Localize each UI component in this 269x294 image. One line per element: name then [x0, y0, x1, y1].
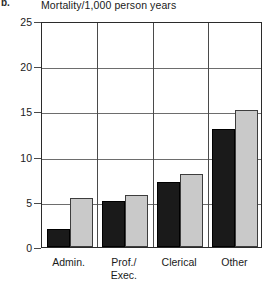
- group-divider: [97, 23, 98, 247]
- y-tick-label: 20: [4, 61, 32, 73]
- y-tick-label: 10: [4, 152, 32, 164]
- y-tick-label: 0: [4, 242, 32, 254]
- y-axis: 0510152025: [0, 0, 32, 294]
- y-tick-mark: [34, 112, 41, 113]
- figure-root: b. Mortality/1,000 person years 05101520…: [0, 0, 269, 294]
- group-divider: [208, 23, 209, 247]
- y-tick-mark: [34, 203, 41, 204]
- x-category-label: Prof./ Exec.: [96, 256, 151, 281]
- bar-series-dark-1: [102, 201, 125, 247]
- x-category-label: Admin.: [41, 256, 96, 269]
- bar-series-dark-3: [212, 129, 235, 247]
- gridline: [42, 113, 261, 114]
- x-category-label: Clerical: [152, 256, 207, 269]
- bar-series-dark-0: [47, 229, 70, 247]
- bar-series-dark-2: [157, 182, 180, 247]
- y-tick-mark: [34, 248, 41, 249]
- y-tick-mark: [34, 67, 41, 68]
- plot-area: [41, 22, 262, 248]
- gridline: [42, 68, 261, 69]
- x-category-label: Other: [207, 256, 262, 269]
- bar-series-light-0: [70, 198, 93, 247]
- y-tick-mark: [34, 158, 41, 159]
- bar-series-light-3: [235, 110, 258, 247]
- y-tick-mark: [34, 22, 41, 23]
- group-divider: [153, 23, 154, 247]
- chart-title: Mortality/1,000 person years: [41, 0, 176, 11]
- y-tick-label: 25: [4, 16, 32, 28]
- bar-series-light-2: [180, 174, 203, 247]
- bar-series-light-1: [125, 195, 148, 247]
- y-tick-label: 15: [4, 106, 32, 118]
- y-tick-label: 5: [4, 197, 32, 209]
